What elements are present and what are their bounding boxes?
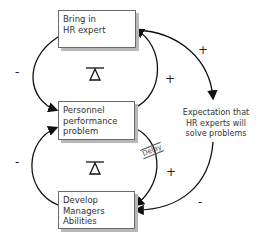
- link-develop-to-problem: [32, 128, 58, 205]
- node-bring-in-hr-expert: Bring in HR expert: [58, 10, 136, 48]
- node-text: Managers: [63, 206, 130, 217]
- balancing-loop-icon-lower: [86, 162, 104, 174]
- link-hr-to-problem: [33, 37, 58, 110]
- polarity-problem-to-develop: +: [166, 166, 176, 178]
- balancing-loop-icon-upper: [86, 68, 104, 80]
- polarity-expectation-to-develop: -: [198, 196, 202, 208]
- node-text: HR expert: [63, 25, 131, 36]
- node-text: problem: [63, 126, 130, 137]
- link-problem-to-hr: [134, 30, 158, 108]
- node-expectation: Expectation that HR experts will solve p…: [176, 108, 256, 140]
- polarity-hr-to-expectation: +: [198, 44, 208, 56]
- node-text: performance: [63, 116, 130, 127]
- polarity-hr-to-problem: -: [15, 66, 19, 78]
- node-text: HR experts will: [176, 119, 256, 130]
- node-develop-managers-abilities: Develop Managers Abilities: [58, 191, 135, 229]
- node-text: Personnel: [63, 105, 130, 116]
- node-personnel-performance-problem: Personnel performance problem: [58, 101, 135, 140]
- node-text: Expectation that: [176, 108, 256, 119]
- link-problem-to-develop: [134, 128, 157, 205]
- polarity-problem-to-hr: +: [165, 73, 175, 85]
- node-text: Develop: [63, 195, 130, 206]
- node-text: solve problems: [176, 129, 256, 140]
- node-text: Bring in: [63, 14, 131, 25]
- node-text: Abilities: [63, 216, 130, 227]
- polarity-develop-to-problem: -: [15, 156, 19, 168]
